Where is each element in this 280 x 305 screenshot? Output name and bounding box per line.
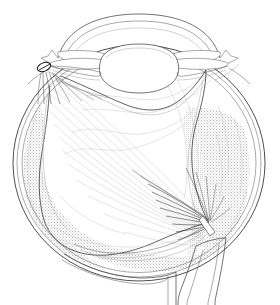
figure-root — [0, 0, 280, 305]
eye-cross-section-illustration — [0, 0, 280, 305]
optic-nerve-left-border — [178, 246, 196, 305]
lens — [99, 44, 178, 93]
ora-serrata-right — [229, 68, 250, 84]
